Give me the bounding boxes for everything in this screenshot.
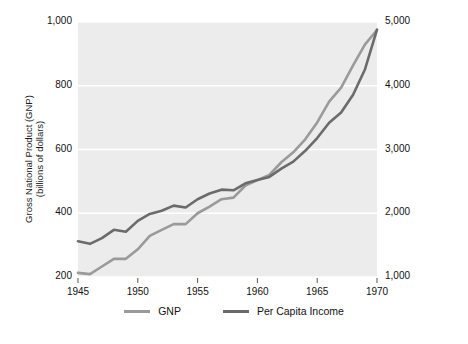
y-axis-left-tick: 800 — [28, 79, 72, 90]
x-axis-tick: 1970 — [354, 286, 400, 297]
y-axis-left-title-line1: Gross National Product (GNP) — [23, 95, 34, 223]
x-axis-tick: 1945 — [55, 286, 101, 297]
x-axis-tick: 1960 — [234, 286, 280, 297]
y-axis-left-tick: 1,000 — [28, 15, 72, 26]
y-axis-right-tick: 1,000 — [385, 270, 431, 281]
y-axis-right-tick: 3,000 — [385, 143, 431, 154]
legend-label: GNP — [158, 305, 181, 317]
legend-swatch-icon — [124, 310, 150, 313]
legend-swatch-icon — [223, 310, 249, 313]
y-axis-left-title-line2: (billions of dollars) — [34, 121, 45, 198]
x-axis-tick: 1965 — [294, 286, 340, 297]
y-axis-left-tick: 400 — [28, 206, 72, 217]
axis-tick-marks — [78, 278, 377, 283]
legend-item: Per Capita Income — [223, 305, 344, 317]
legend-item: GNP — [124, 305, 181, 317]
legend-label: Per Capita Income — [257, 305, 344, 317]
x-axis-tick: 1955 — [175, 286, 221, 297]
y-axis-right-tick: 4,000 — [385, 79, 431, 90]
chart-figure: Gross National Product (GNP) (billions o… — [0, 0, 468, 344]
y-axis-left-tick: 200 — [28, 270, 72, 281]
y-axis-right-tick: 5,000 — [385, 15, 431, 26]
y-axis-left-tick: 600 — [28, 143, 72, 154]
y-axis-left-title: Gross National Product (GNP) (billions o… — [23, 64, 45, 254]
chart-legend: GNPPer Capita Income — [0, 305, 468, 317]
x-axis-tick: 1950 — [115, 286, 161, 297]
y-axis-right-tick: 2,000 — [385, 206, 431, 217]
